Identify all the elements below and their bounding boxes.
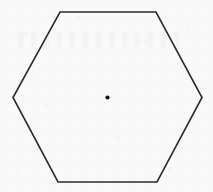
center-point-dot <box>105 95 109 99</box>
figure-canvas: Regular hexagon with center point <box>0 0 213 192</box>
geometry-figure: Regular hexagon with center point <box>0 0 213 192</box>
